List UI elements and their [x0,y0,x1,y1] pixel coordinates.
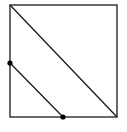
parallel-segment [10,63,63,117]
square-diagram [0,0,127,132]
main-diagonal [10,5,117,117]
bottom-side-point [60,114,65,119]
left-side-point [7,60,12,65]
